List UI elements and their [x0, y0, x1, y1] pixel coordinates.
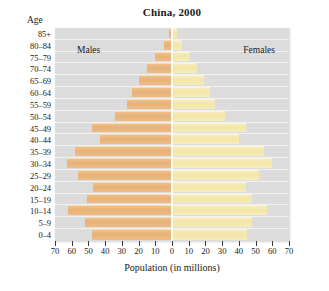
- female-bar: [172, 111, 225, 121]
- male-bar: [127, 99, 172, 109]
- female-bar: [172, 52, 190, 62]
- male-bar: [75, 146, 172, 156]
- plot-area: Males Females: [55, 28, 289, 241]
- x-axis-tick-label: 20: [201, 246, 210, 256]
- y-axis-tick-label: 85+: [38, 29, 51, 38]
- female-bar: [172, 40, 182, 50]
- y-axis-tick-label: 25–29: [30, 171, 51, 180]
- y-axis-tick-label: 45–49: [30, 124, 51, 133]
- female-bar: [172, 146, 264, 156]
- y-axis-tick-label: 0–4: [38, 231, 51, 240]
- male-bar: [87, 194, 172, 204]
- y-axis-tick-label: 10–14: [30, 207, 51, 216]
- male-bar: [139, 75, 172, 85]
- y-axis-tick-label: 30–34: [30, 160, 51, 169]
- x-axis-tick-label: 10: [151, 246, 160, 256]
- x-axis-tick-label: 20: [134, 246, 143, 256]
- male-bar: [100, 134, 172, 144]
- y-axis-tick-label: 70–74: [30, 65, 51, 74]
- female-bar: [172, 170, 259, 180]
- zero-axis-line: [171, 28, 173, 241]
- y-axis-tick-label: 20–24: [30, 183, 51, 192]
- female-bar: [172, 99, 215, 109]
- male-bar: [132, 87, 172, 97]
- females-group-label: Females: [243, 45, 275, 55]
- male-bar: [115, 111, 172, 121]
- x-axis-tick-label: 0: [170, 246, 174, 256]
- female-bar: [172, 63, 197, 73]
- y-axis-tick-label: 50–54: [30, 112, 51, 121]
- female-bar: [172, 182, 246, 192]
- x-axis-tick-label: 70: [51, 246, 60, 256]
- male-bar: [85, 217, 172, 227]
- x-axis-tick-label: 60: [268, 246, 277, 256]
- x-axis-tick-label: 40: [101, 246, 110, 256]
- y-axis-tick-label: 15–19: [30, 195, 51, 204]
- female-bar: [172, 158, 272, 168]
- y-axis-tick-label: 80–84: [30, 41, 51, 50]
- y-axis-tick-label: 5–9: [38, 219, 51, 228]
- male-bar: [155, 52, 172, 62]
- male-bar: [68, 205, 172, 215]
- male-bar: [67, 158, 172, 168]
- male-bar: [93, 182, 172, 192]
- y-axis-tick-label: 40–44: [30, 136, 51, 145]
- female-bar: [172, 75, 204, 85]
- y-axis-caption: Age: [27, 15, 43, 25]
- males-group-label: Males: [77, 45, 100, 55]
- female-bar: [172, 194, 252, 204]
- x-axis-tick-label: 70: [285, 246, 294, 256]
- female-bar: [172, 87, 210, 97]
- male-bar: [92, 123, 172, 133]
- y-axis-tick-label: 65–69: [30, 77, 51, 86]
- male-bar: [92, 229, 172, 240]
- x-axis-tick-label: 10: [184, 246, 193, 256]
- y-axis-tick-label: 55–59: [30, 100, 51, 109]
- x-axis-tick-label: 50: [251, 246, 260, 256]
- x-axis-tick-label: 50: [84, 246, 93, 256]
- x-axis-title: Population (in millions): [55, 262, 289, 273]
- female-bar: [172, 217, 252, 227]
- male-bar: [78, 170, 172, 180]
- x-axis-tick-labels: 70605040302010010203040506070: [0, 246, 329, 260]
- population-pyramid-figure: China, 2000 Age 85+80–8475–7970–7465–696…: [0, 0, 329, 291]
- male-bar: [147, 63, 172, 73]
- y-axis-tick-label: 60–64: [30, 89, 51, 98]
- female-bar: [172, 205, 267, 215]
- y-axis-tick-labels: 85+80–8475–7970–7465–6960–6455–5950–5445…: [0, 28, 53, 241]
- x-axis-tick-label: 40: [235, 246, 244, 256]
- y-axis-tick-label: 35–39: [30, 148, 51, 157]
- page-title: China, 2000: [55, 6, 289, 18]
- female-bar: [172, 229, 247, 240]
- x-axis-tick-label: 30: [118, 246, 127, 256]
- x-axis-tick-label: 60: [67, 246, 76, 256]
- female-bar: [172, 123, 246, 133]
- x-axis-tick-label: 30: [218, 246, 227, 256]
- female-bar: [172, 134, 239, 144]
- y-axis-tick-label: 75–79: [30, 53, 51, 62]
